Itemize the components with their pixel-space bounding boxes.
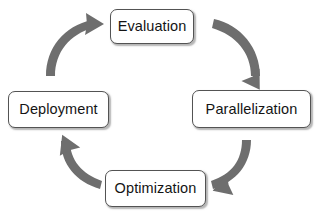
node-optimization[interactable]: Optimization	[105, 170, 206, 207]
arrow-evaluation-to-parallelization	[212, 19, 269, 95]
node-optimization-label: Optimization	[115, 181, 197, 196]
node-parallelization-label: Parallelization	[206, 102, 298, 117]
node-parallelization[interactable]: Parallelization	[192, 90, 311, 128]
node-deployment-label: Deployment	[19, 102, 97, 117]
cycle-diagram: Evaluation Parallelization Optimization …	[0, 0, 321, 216]
node-evaluation-label: Evaluation	[118, 19, 187, 34]
arrow-optimization-to-deployment	[52, 130, 102, 189]
arrow-parallelization-to-optimization	[209, 140, 251, 201]
node-deployment[interactable]: Deployment	[8, 91, 109, 128]
arrow-deployment-to-evaluation	[46, 13, 104, 76]
node-evaluation[interactable]: Evaluation	[110, 9, 194, 44]
